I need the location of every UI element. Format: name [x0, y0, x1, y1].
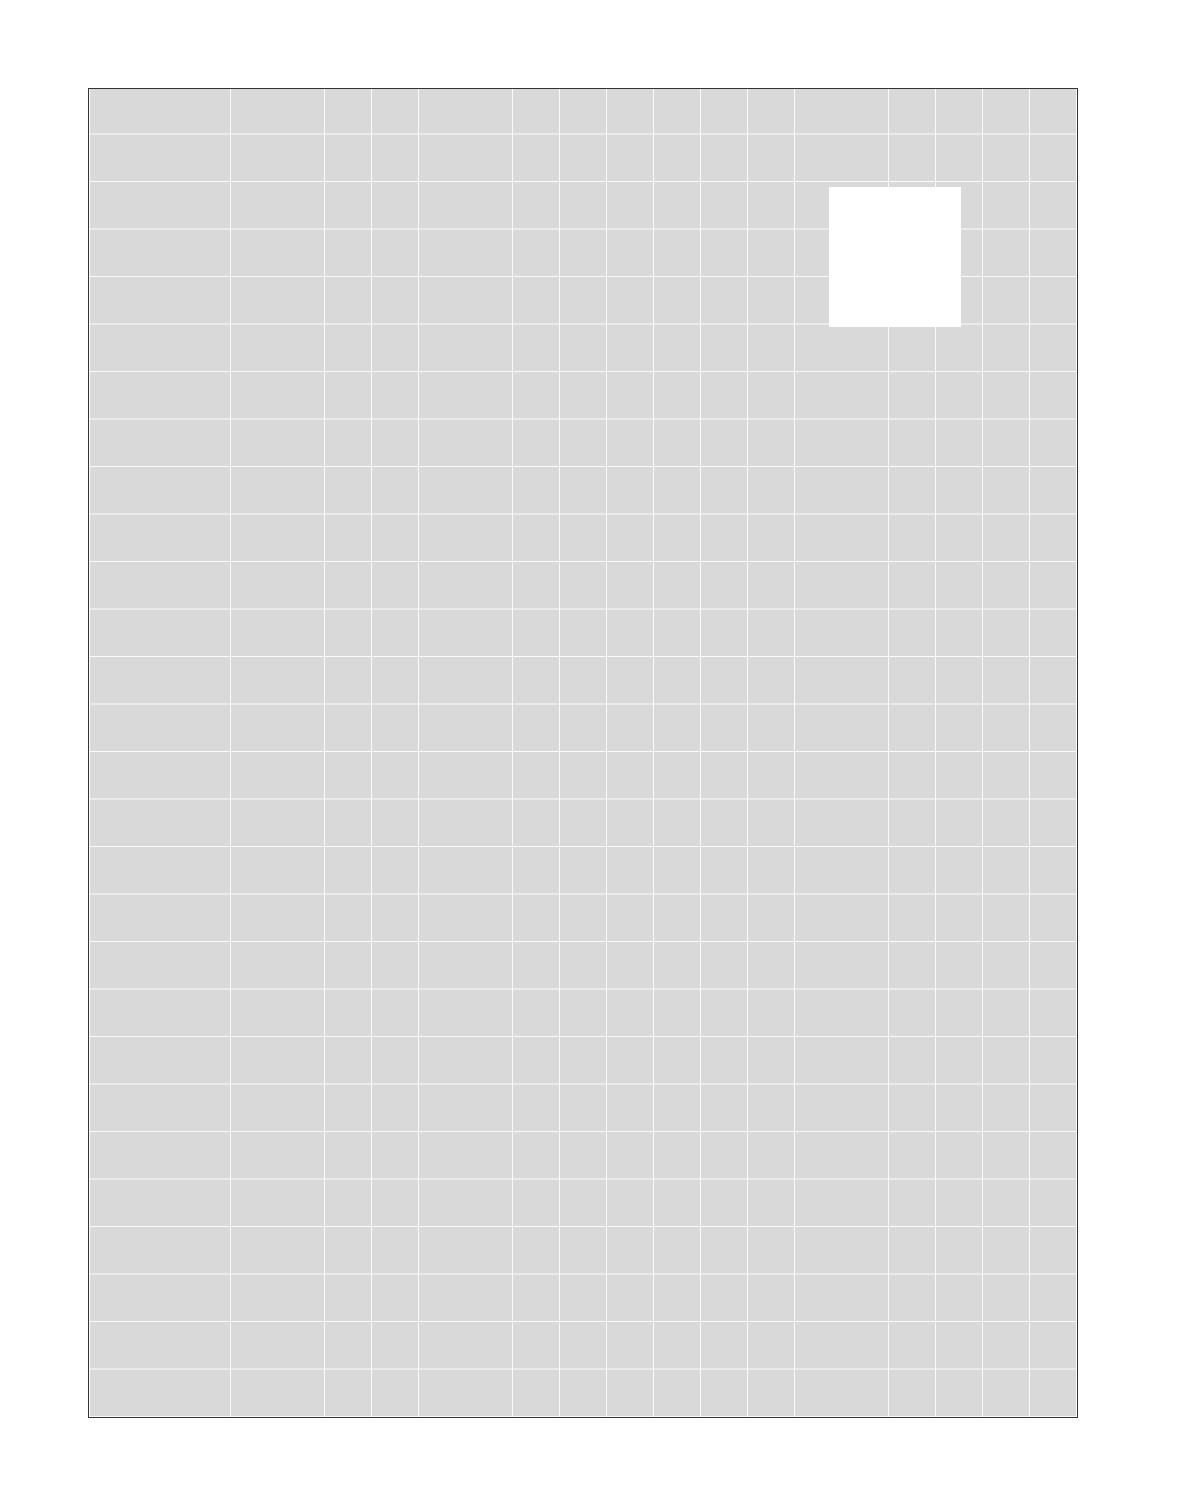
legend — [829, 187, 961, 327]
chart-stage — [0, 0, 1193, 1500]
plot-area — [88, 88, 1078, 1418]
